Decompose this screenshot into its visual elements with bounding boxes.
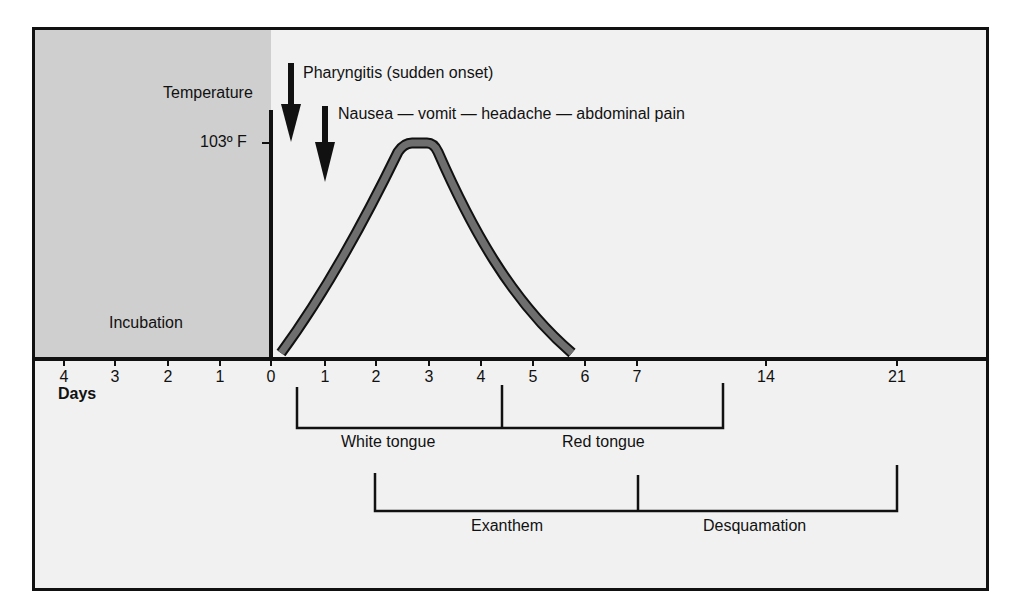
day-tick-label: 4 [60, 368, 69, 386]
day-tick-label: 0 [267, 368, 276, 386]
day-tick-label: 7 [633, 368, 642, 386]
day-tick-label: 1 [321, 368, 330, 386]
scarlet-fever-timeline-diagram: Temperature 103º F Pharyngitis (sudden o… [0, 0, 1009, 615]
day-tick-label: 2 [164, 368, 173, 386]
day-tick-label: 1 [216, 368, 225, 386]
incubation-shaded-region [33, 28, 271, 359]
day-tick-label: 4 [477, 368, 486, 386]
day-tick-label: 21 [888, 368, 906, 386]
day-tick-label: 14 [757, 368, 775, 386]
desquamation-label: Desquamation [703, 517, 806, 535]
day-tick-label: 2 [372, 368, 381, 386]
day-tick-label: 3 [425, 368, 434, 386]
temp-103-label: 103º F [200, 133, 247, 151]
day-tick-label: 5 [529, 368, 538, 386]
day-tick-label: 3 [111, 368, 120, 386]
incubation-label: Incubation [109, 314, 183, 332]
red-tongue-label: Red tongue [562, 433, 645, 451]
symptoms-label: Nausea — vomit — headache — abdominal pa… [338, 105, 685, 123]
white-tongue-label: White tongue [341, 433, 435, 451]
day-tick-label: 6 [581, 368, 590, 386]
exanthem-label: Exanthem [471, 517, 543, 535]
days-axis-label: Days [58, 385, 96, 403]
pharyngitis-label: Pharyngitis (sudden onset) [303, 64, 493, 82]
temperature-axis-label: Temperature [163, 84, 253, 102]
